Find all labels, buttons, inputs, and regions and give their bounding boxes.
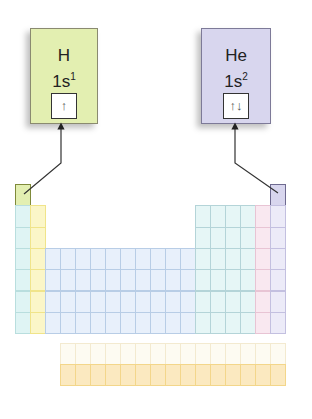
h-arrow (24, 126, 61, 194)
connector-arrows (0, 0, 312, 419)
he-arrow (235, 126, 278, 193)
